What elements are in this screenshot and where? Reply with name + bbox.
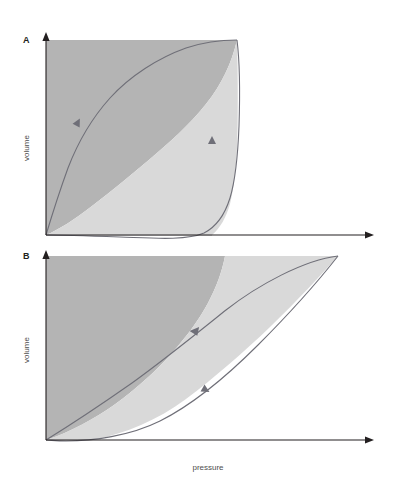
panel-a-letter: A [23,35,30,45]
panel-b-x-axis-arrowhead [365,436,374,443]
panel-b-y-axis-arrowhead [42,250,49,259]
panel-b: B volume pressure [22,250,374,472]
figure-container: A volume B [0,0,402,497]
panel-b-letter: B [23,251,30,261]
panel-a: A volume [22,32,374,239]
panel-a-x-axis-arrowhead [365,231,374,238]
panel-b-x-axis-label: pressure [192,463,224,472]
panel-a-y-axis-arrowhead [42,32,49,41]
pressure-volume-figure: A volume B [0,0,402,497]
panel-b-y-axis-label: volume [22,337,31,363]
panel-a-y-axis-label: volume [22,135,31,161]
